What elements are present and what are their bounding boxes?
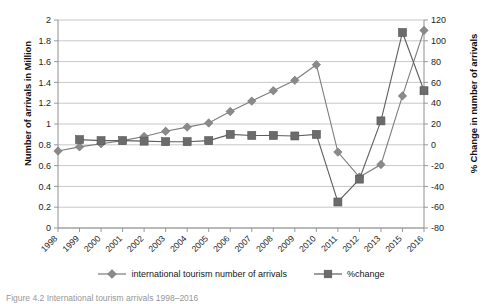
data-point-pctchange[interactable] — [248, 131, 256, 139]
data-point-pctchange[interactable] — [269, 131, 277, 139]
data-point-arrivals[interactable] — [226, 107, 234, 115]
right-tick-label: -80 — [431, 223, 444, 233]
left-tick-label: 0.8 — [38, 140, 51, 150]
right-tick-label: 0 — [431, 140, 436, 150]
data-point-arrivals[interactable] — [398, 92, 406, 100]
x-tick-label: 2008 — [254, 233, 275, 254]
data-point-arrivals[interactable] — [161, 127, 169, 135]
x-tick-label: 2010 — [297, 233, 318, 254]
x-tick-label: 2011 — [319, 233, 339, 253]
x-tick-label: 2004 — [168, 233, 189, 254]
chart-figure: Number of arrivals in Million % Change i… — [0, 0, 482, 304]
right-tick-label: 80 — [431, 57, 441, 67]
data-point-pctchange[interactable] — [377, 117, 385, 125]
right-tick-label: -20 — [431, 161, 444, 171]
x-tick-label: 2001 — [103, 233, 124, 254]
legend-item-arrivals[interactable]: international tourism number of arrivals — [97, 268, 287, 280]
x-tick-label: 2016 — [405, 233, 426, 254]
data-point-arrivals[interactable] — [205, 119, 213, 127]
plot-area: 00.20.40.60.811.21.41.61.82-80-60-40-200… — [0, 0, 482, 304]
data-point-pctchange[interactable] — [420, 87, 428, 95]
data-point-pctchange[interactable] — [140, 137, 148, 145]
data-point-pctchange[interactable] — [162, 138, 170, 146]
data-point-pctchange[interactable] — [398, 28, 406, 36]
right-tick-label: 100 — [431, 36, 446, 46]
x-tick-label: 2015 — [383, 233, 404, 254]
right-tick-label: -40 — [431, 182, 444, 192]
data-point-arrivals[interactable] — [291, 76, 299, 84]
right-tick-label: -60 — [431, 202, 444, 212]
left-tick-label: 1.2 — [38, 98, 51, 108]
right-tick-label: 120 — [431, 15, 446, 25]
x-tick-label: 2012 — [340, 233, 361, 254]
data-point-pctchange[interactable] — [183, 138, 191, 146]
data-point-arrivals[interactable] — [75, 143, 83, 151]
left-tick-label: 1.6 — [38, 57, 51, 67]
left-tick-label: 0.2 — [38, 202, 51, 212]
data-point-pctchange[interactable] — [355, 175, 363, 183]
left-tick-label: 2 — [46, 15, 51, 25]
data-point-pctchange[interactable] — [97, 137, 105, 145]
legend-diamond-icon — [97, 268, 127, 280]
left-tick-label: 0 — [46, 223, 51, 233]
x-tick-label: 2013 — [362, 233, 383, 254]
x-tick-label: 1999 — [60, 233, 81, 254]
x-tick-label: 2007 — [233, 233, 254, 254]
data-point-pctchange[interactable] — [205, 137, 213, 145]
data-point-pctchange[interactable] — [291, 132, 299, 140]
chart-legend: international tourism number of arrivals… — [0, 268, 482, 280]
x-tick-label: 2005 — [190, 233, 211, 254]
legend-label-pctchange: %change — [347, 269, 385, 279]
x-tick-label: 2002 — [125, 233, 146, 254]
data-point-pctchange[interactable] — [76, 136, 84, 144]
data-point-pctchange[interactable] — [334, 198, 342, 206]
data-point-arrivals[interactable] — [248, 97, 256, 105]
legend-square-icon — [313, 268, 343, 280]
right-tick-label: 20 — [431, 119, 441, 129]
series-line-pctchange — [80, 32, 424, 202]
data-point-pctchange[interactable] — [312, 130, 320, 138]
data-point-arrivals[interactable] — [269, 87, 277, 95]
data-point-pctchange[interactable] — [226, 130, 234, 138]
x-tick-label: 1998 — [39, 233, 60, 254]
figure-caption: Figure 4.2 International tourism arrival… — [6, 293, 198, 304]
data-point-pctchange[interactable] — [119, 137, 127, 145]
left-tick-label: 1.8 — [38, 36, 51, 46]
x-tick-label: 2003 — [146, 233, 167, 254]
series-line-arrivals — [58, 30, 424, 177]
legend-item-pctchange[interactable]: %change — [313, 268, 385, 280]
left-tick-label: 1.4 — [38, 78, 51, 88]
left-tick-label: 0.6 — [38, 161, 51, 171]
x-tick-label: 2000 — [82, 233, 103, 254]
left-tick-label: 0.4 — [38, 182, 51, 192]
right-tick-label: 60 — [431, 78, 441, 88]
chart-svg: 00.20.40.60.811.21.41.61.82-80-60-40-200… — [0, 0, 482, 304]
x-tick-label: 2009 — [276, 233, 297, 254]
x-tick-label: 2006 — [211, 233, 232, 254]
right-tick-label: 40 — [431, 98, 441, 108]
left-tick-label: 1 — [46, 119, 51, 129]
data-point-arrivals[interactable] — [420, 26, 428, 34]
data-point-arrivals[interactable] — [54, 147, 62, 155]
legend-label-arrivals: international tourism number of arrivals — [131, 269, 287, 279]
data-point-arrivals[interactable] — [377, 160, 385, 168]
